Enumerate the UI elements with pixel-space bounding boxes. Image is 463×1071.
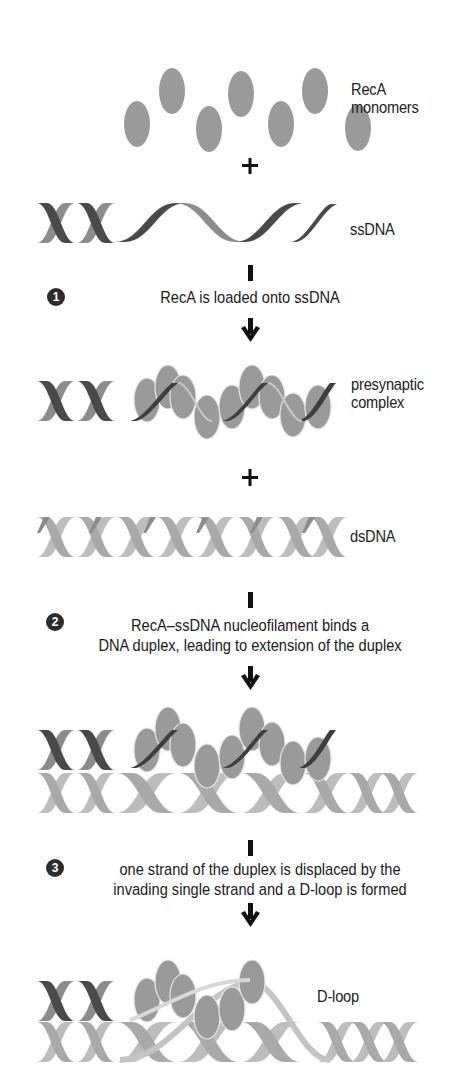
presynaptic-label-line2: complex — [351, 394, 404, 412]
step-2-badge: 2 — [46, 613, 64, 631]
recA-monomers-label-line2: monomers — [351, 99, 419, 117]
plus-sign-1 — [242, 158, 258, 174]
step-2-text-line2: DNA duplex, leading to extension of the … — [61, 636, 439, 656]
presynaptic-label-line1: presynaptic — [351, 376, 424, 394]
dsDNA-duplex — [37, 517, 347, 557]
step-1-badge: 1 — [47, 288, 65, 306]
d-loop-label: D-loop — [317, 988, 359, 1006]
d-loop-structure — [37, 960, 418, 1062]
dsDNA-label: dsDNA — [350, 528, 395, 546]
recA-monomers-label-line1: RecA — [351, 81, 386, 99]
nucleofilament-bound-duplex — [37, 707, 418, 813]
step-1-text: RecA is loaded onto ssDNA — [78, 288, 422, 308]
recA-monomers — [124, 68, 371, 152]
ssDNA-strand — [37, 203, 337, 243]
step-3-text-line1: one strand of the duplex is displaced by… — [71, 860, 449, 880]
step-3-badge: 3 — [46, 859, 64, 877]
step-2-text-line1: RecA–ssDNA nucleofilament binds a — [87, 616, 414, 636]
step-3-text-line2: invading single strand and a D-loop is f… — [71, 880, 449, 900]
presynaptic-complex — [37, 365, 336, 439]
plus-sign-2 — [242, 469, 258, 486]
ssDNA-label: ssDNA — [350, 221, 395, 239]
